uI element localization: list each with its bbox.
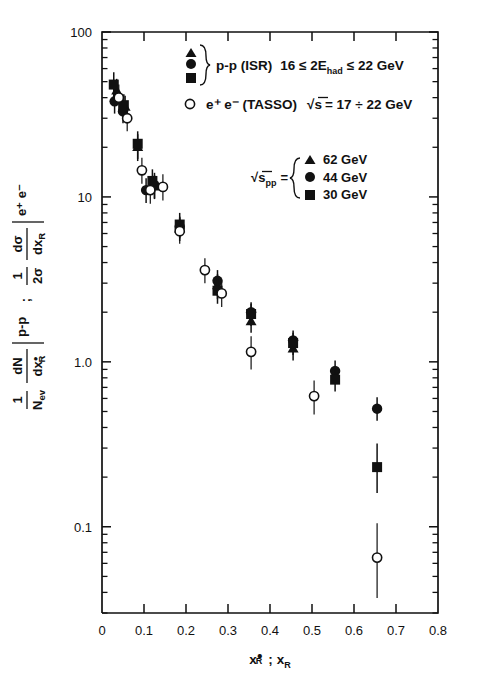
y-axis-title: 1 Nev dN dx●R p-p ; bbox=[10, 184, 47, 410]
data-point-circle-open bbox=[310, 391, 319, 400]
x-title-sub2: R bbox=[284, 660, 291, 670]
legend-sqrt-s: √s bbox=[307, 97, 322, 112]
series-44-gev bbox=[109, 89, 382, 420]
x-axis-labels: 00.10.20.30.40.50.60.70.8 bbox=[98, 623, 447, 638]
y-den-3: 2σ bbox=[30, 268, 45, 284]
legend-block-tasso: e⁺ e⁻ (TASSO)√s= 17 ÷ 22 GeV bbox=[185, 97, 412, 112]
legend-circle-44-icon bbox=[305, 172, 315, 182]
data-point-circle-open bbox=[247, 347, 256, 356]
data-point-circle-open bbox=[373, 553, 382, 562]
y-bar-ee: e⁺ e⁻ bbox=[12, 184, 44, 222]
y-den-2: dx●R bbox=[30, 355, 47, 376]
scatter-plot: 100101.00.1 00.10.20.30.40.50.60.70.8 x●… bbox=[0, 0, 500, 692]
legend-label-62: 62 GeV bbox=[323, 152, 367, 167]
legend-open-circle-icon bbox=[185, 99, 194, 108]
legend-label-44: 44 GeV bbox=[323, 170, 367, 185]
legend-block-isr: p-p (ISR)16 ≤ 2Ehad≤ 22 GeV bbox=[186, 45, 404, 85]
y-bar-1-label: p-p bbox=[14, 317, 29, 337]
y-tick-label: 100 bbox=[70, 25, 92, 40]
data-point-circle-open bbox=[217, 289, 226, 298]
data-point-square-filled bbox=[288, 338, 298, 348]
svg-text:x●R;xR: x●R;xR bbox=[249, 650, 291, 670]
data-point-circle-open bbox=[114, 93, 123, 102]
y-num-3: 1 bbox=[10, 272, 25, 279]
x-tick-label: 0.3 bbox=[219, 623, 237, 638]
x-tick-label: 0.5 bbox=[303, 623, 321, 638]
y-tick-label: 0.1 bbox=[74, 520, 92, 535]
y-num-2: dN bbox=[10, 357, 25, 374]
legend-block-energies: √spp= 62 GeV 44 GeV 30 GeV bbox=[251, 152, 367, 202]
data-point-square-filled bbox=[372, 462, 382, 472]
data-point-square-filled bbox=[133, 139, 143, 149]
y-bar-2-label: e⁺ e⁻ bbox=[14, 184, 29, 216]
y-term-1-over-nev: 1 Nev bbox=[10, 389, 47, 410]
y-tick-label: 1.0 bbox=[74, 355, 92, 370]
figure-container: 100101.00.1 00.10.20.30.40.50.60.70.8 x●… bbox=[0, 0, 500, 692]
y-axis-labels: 100101.00.1 bbox=[70, 25, 92, 535]
y-den-1: Nev bbox=[30, 389, 47, 410]
plot-frame bbox=[102, 32, 438, 613]
x-axis-title: x●R;xR bbox=[249, 650, 291, 670]
x-tick-label: 0.8 bbox=[429, 623, 447, 638]
y-term-dsigma-dxr: dσ dxR bbox=[10, 228, 47, 260]
x-tick-label: 0.7 bbox=[387, 623, 405, 638]
y-num-4: dσ bbox=[10, 235, 25, 252]
series-62-gev bbox=[111, 79, 298, 361]
data-point-square-filled bbox=[109, 80, 119, 90]
x-axis-ticks bbox=[144, 32, 396, 613]
x-tick-label: 0 bbox=[98, 623, 105, 638]
data-point-circle-open bbox=[146, 185, 155, 194]
x-tick-label: 0.1 bbox=[135, 623, 153, 638]
y-bar-pp: p-p bbox=[12, 317, 44, 343]
y-term-1-over-2sigma: 1 2σ bbox=[10, 267, 45, 285]
y-tick-label: 10 bbox=[78, 190, 92, 205]
legend-tasso-label: e⁺ e⁻ (TASSO)√s= 17 ÷ 22 GeV bbox=[206, 97, 412, 112]
legend-sqrt-s-pp: √spp= bbox=[251, 170, 288, 188]
x-tick-label: 0.2 bbox=[177, 623, 195, 638]
data-point-square-filled bbox=[147, 176, 157, 186]
y-num-1: 1 bbox=[10, 396, 25, 403]
y-axis-ticks bbox=[102, 32, 438, 613]
legend-circle-icon bbox=[186, 59, 196, 69]
legend-triangle-icon bbox=[186, 48, 197, 57]
data-point-circle-filled bbox=[372, 403, 382, 413]
data-point-square-filled bbox=[246, 309, 256, 319]
data-point-circle-open bbox=[175, 227, 184, 236]
x-title-sub1: R bbox=[256, 656, 263, 666]
x-tick-label: 0.6 bbox=[345, 623, 363, 638]
legend-triangle-62-icon bbox=[305, 155, 316, 164]
y-den-4: dxR bbox=[30, 233, 47, 255]
data-point-circle-open bbox=[137, 166, 146, 175]
x-title-sep: ; bbox=[268, 652, 273, 667]
y-den-1-sub: ev bbox=[36, 389, 47, 400]
legend-square-icon bbox=[186, 73, 196, 83]
y-term-dn-dxr: dN dx●R bbox=[10, 349, 47, 383]
data-point-circle-open bbox=[200, 265, 209, 274]
data-point-circle-open bbox=[158, 182, 167, 191]
series-30-gev bbox=[109, 72, 382, 493]
data-point-square-filled bbox=[330, 375, 340, 385]
y-title-sep: ; bbox=[18, 298, 33, 302]
legend-isr-label: p-p (ISR)16 ≤ 2Ehad≤ 22 GeV bbox=[216, 58, 404, 76]
y-den-4-sub: R bbox=[36, 233, 47, 240]
legend-square-30-icon bbox=[305, 190, 315, 200]
x-tick-label: 0.4 bbox=[261, 623, 279, 638]
legend-label-30: 30 GeV bbox=[323, 187, 367, 202]
y-den-2-sub: R bbox=[36, 355, 47, 362]
data-point-circle-open bbox=[123, 114, 132, 123]
